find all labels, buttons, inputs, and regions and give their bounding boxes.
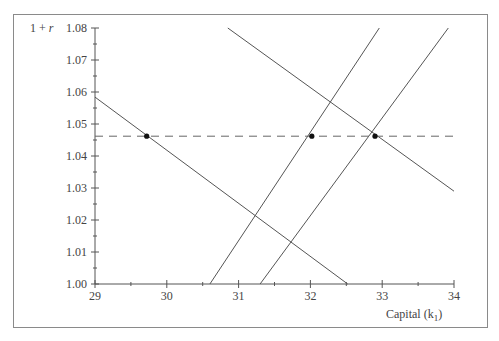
y-tick-label: 1.04 <box>66 149 87 163</box>
y-tick-label: 1.01 <box>66 245 87 259</box>
chart: 2930313233341.001.011.021.031.041.051.06… <box>0 0 499 341</box>
x-tick-label: 32 <box>304 289 316 303</box>
y-axis-title: 1 + r <box>30 21 54 35</box>
x-tick-label: 34 <box>448 289 460 303</box>
y-tick-label: 1.06 <box>66 85 87 99</box>
y-tick-label: 1.05 <box>66 117 87 131</box>
y-tick-label: 1.03 <box>66 181 87 195</box>
equilibrium-marker <box>309 134 314 139</box>
declining-line-left <box>95 97 348 284</box>
declining-line-right <box>228 28 454 191</box>
y-tick-label: 1.00 <box>66 277 87 291</box>
y-tick-label: 1.08 <box>66 21 87 35</box>
axes: 2930313233341.001.011.021.031.041.051.06… <box>66 21 460 303</box>
series-group <box>95 28 454 284</box>
equilibrium-marker <box>144 134 149 139</box>
x-tick-label: 29 <box>89 289 101 303</box>
x-tick-label: 31 <box>233 289 245 303</box>
y-tick-label: 1.07 <box>66 53 87 67</box>
equilibrium-marker <box>372 134 377 139</box>
x-tick-label: 30 <box>161 289 173 303</box>
x-axis-title: Capital (k1) <box>386 307 442 323</box>
x-tick-label: 33 <box>376 289 388 303</box>
y-tick-label: 1.02 <box>66 213 87 227</box>
